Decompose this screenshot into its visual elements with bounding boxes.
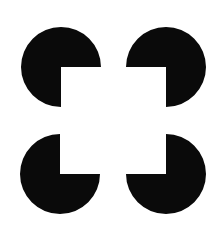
- pacman-inducer-bottom-left: [20, 134, 100, 214]
- kanizsa-figure: [0, 0, 220, 231]
- pacman-inducer-bottom-right: [126, 134, 206, 214]
- pacman-inducer-top-right: [126, 27, 206, 107]
- figure-canvas: [0, 0, 220, 231]
- pacman-inducer-top-left: [21, 27, 101, 107]
